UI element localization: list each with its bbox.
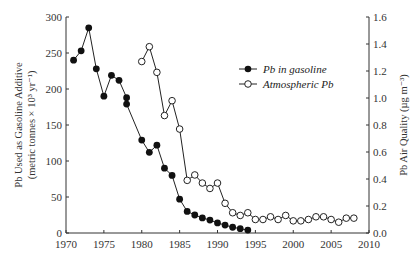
data-point	[313, 214, 320, 221]
data-point	[108, 72, 115, 79]
y-left-axis-title: Pb Used as Gasoline Additive	[13, 62, 24, 188]
x-tick-label: 1970	[55, 238, 78, 250]
data-point	[70, 57, 77, 64]
y-right-tick-label: 1.6	[373, 11, 387, 23]
data-point	[237, 225, 244, 232]
data-point	[275, 216, 282, 223]
data-point	[184, 208, 191, 215]
data-point	[138, 58, 145, 65]
y-right-tick-label: 0.0	[373, 227, 387, 239]
x-tick-label: 2010	[358, 238, 381, 250]
data-point	[244, 227, 251, 234]
data-point	[237, 212, 244, 219]
y-left-tick-label: 300	[46, 11, 63, 23]
legend-label-atmospheric: Atmospheric Pb	[262, 78, 334, 90]
data-point	[154, 69, 161, 76]
data-point	[116, 77, 123, 84]
data-point	[222, 200, 229, 207]
data-point	[207, 185, 214, 192]
data-point	[100, 93, 107, 100]
y-left-axis-subtitle: (metric tonnes × 10³ yr⁻¹)	[26, 70, 38, 179]
data-point	[282, 212, 289, 219]
x-tick-label: 1995	[244, 238, 267, 250]
y-right-tick-label: 0.2	[373, 200, 387, 212]
data-point	[214, 220, 221, 227]
data-point	[207, 217, 214, 224]
data-point	[245, 209, 252, 216]
series-line	[74, 28, 248, 230]
dual-axis-line-chart: 1970197519801985199019952000200520100501…	[0, 0, 418, 259]
y-left-tick-label: 200	[46, 83, 63, 95]
data-point	[222, 222, 229, 229]
data-point	[191, 212, 198, 219]
data-point	[229, 224, 236, 231]
data-point	[290, 218, 297, 225]
data-point	[199, 180, 206, 187]
y-left-tick-label: 100	[46, 155, 63, 167]
data-point	[260, 216, 267, 223]
data-point	[176, 196, 183, 203]
data-point	[252, 216, 259, 223]
data-point	[146, 149, 153, 156]
data-point	[184, 177, 191, 184]
x-tick-label: 2005	[320, 238, 343, 250]
y-right-tick-label: 1.0	[373, 92, 387, 104]
data-point	[85, 24, 92, 31]
data-point	[169, 97, 176, 104]
y-left-tick-label: 250	[46, 47, 63, 59]
legend: Pb in gasoline Atmospheric Pb	[239, 63, 334, 90]
y-right-tick-label: 1.4	[373, 38, 387, 50]
data-point	[176, 126, 183, 133]
y-right-tick-label: 0.8	[373, 119, 387, 131]
data-point	[123, 101, 130, 108]
data-point	[161, 165, 168, 172]
data-point	[320, 214, 327, 221]
data-point	[328, 216, 335, 223]
data-point	[305, 216, 312, 223]
data-point	[161, 112, 168, 119]
y-left-tick-label: 50	[51, 191, 63, 203]
data-point	[93, 65, 100, 72]
y-left-tick-label: 150	[46, 119, 63, 131]
data-point	[343, 215, 350, 222]
x-tick-label: 1990	[207, 238, 230, 250]
data-point	[138, 137, 145, 144]
data-point	[214, 180, 221, 187]
data-point	[146, 43, 153, 50]
data-point	[154, 142, 161, 149]
series-layer	[70, 24, 357, 233]
x-tick-label: 1985	[169, 238, 192, 250]
data-point	[78, 47, 85, 54]
data-point	[123, 94, 130, 101]
data-point	[298, 218, 305, 225]
data-point	[335, 219, 342, 226]
y-left-tick-label: 0	[57, 227, 63, 239]
data-point	[199, 214, 206, 221]
x-tick-label: 1975	[93, 238, 116, 250]
data-point	[191, 172, 198, 179]
y-right-tick-label: 0.6	[373, 146, 387, 158]
axes: 1970197519801985199019952000200520100501…	[46, 11, 388, 250]
x-tick-label: 1980	[131, 238, 154, 250]
y-right-tick-label: 1.2	[373, 65, 387, 77]
data-point	[169, 172, 176, 179]
open-circle-icon	[245, 81, 252, 88]
legend-label-gasoline: Pb in gasoline	[262, 63, 327, 75]
data-point	[351, 215, 358, 222]
filled-circle-icon	[245, 66, 252, 73]
x-tick-label: 2000	[282, 238, 305, 250]
y-right-axis-title: Pb Air Quality (µg m⁻³)	[398, 74, 410, 176]
data-point	[229, 209, 236, 216]
data-point	[267, 214, 274, 221]
y-right-tick-label: 0.4	[373, 173, 387, 185]
